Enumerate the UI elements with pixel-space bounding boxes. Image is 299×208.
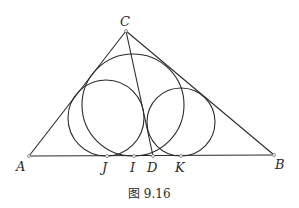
geometry-figure: C A B J I D K 图 9.16 (0, 0, 299, 208)
point-A-marker (28, 155, 31, 158)
label-B: B (274, 157, 285, 172)
segment-BC (126, 31, 274, 155)
incircle (82, 54, 184, 156)
left-circle (68, 80, 144, 156)
point-C-marker (125, 30, 128, 33)
point-J-marker (106, 155, 109, 158)
point-D-marker (152, 155, 155, 158)
label-A: A (15, 159, 25, 174)
point-I-marker (133, 155, 136, 158)
label-C: C (120, 14, 130, 29)
label-J: J (99, 160, 108, 175)
figure-caption: 图 9.16 (128, 187, 171, 201)
point-K-marker (180, 155, 183, 158)
label-I: I (129, 160, 136, 175)
label-K: K (174, 160, 186, 175)
label-D: D (146, 160, 158, 175)
